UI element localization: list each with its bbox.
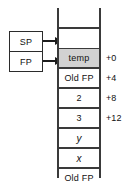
stack-column: tempOld FP23yxOld FP [57,8,101,178]
stack-cell: Old FP [59,68,99,88]
offset-label: +4 [106,68,132,88]
stack-frame-diagram: SP FP tempOld FP23yxOld FP +0+4+8+12 [0,0,132,185]
offset-label: +8 [106,88,132,108]
stack-cell-empty [59,8,99,28]
register-sp: SP [10,32,42,52]
offset-label: +0 [106,48,132,68]
offset-label: +12 [106,108,132,128]
stack-cell: y [59,128,99,148]
stack-cell: Old FP [59,168,99,185]
register-fp: FP [10,52,42,71]
register-box: SP FP [9,31,43,72]
stack-cell-empty [59,28,99,48]
stack-cell: temp [59,48,99,68]
stack-cell: x [59,148,99,168]
stack-cell: 3 [59,108,99,128]
arrow-sp-to-temp-icon [43,40,56,42]
stack-cell: 2 [59,88,99,108]
arrow-fp-to-oldfp-icon [43,60,56,62]
